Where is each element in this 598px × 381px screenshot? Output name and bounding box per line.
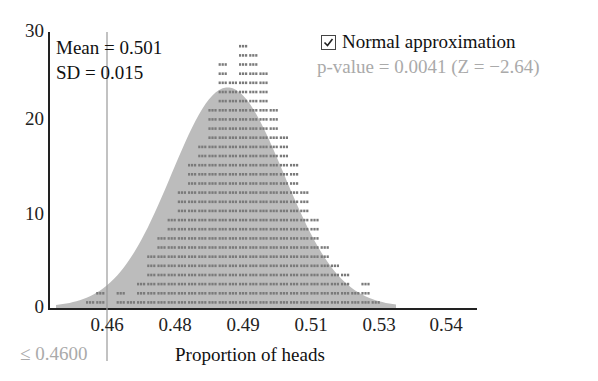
x-tick-054: 0.54 — [429, 314, 462, 336]
x-tick-049: 0.49 — [226, 314, 259, 336]
sd-label: SD = 0.015 — [56, 62, 143, 84]
cutoff-label: ≤ 0.4600 — [20, 343, 87, 365]
y-tick-10: 10 — [4, 203, 44, 225]
p-value-text: p-value = 0.0041 (Z = −2.64) — [317, 56, 540, 78]
mean-label: Mean = 0.501 — [56, 37, 162, 59]
normal-approximation-toggle[interactable]: Normal approximation — [321, 31, 516, 53]
x-tick-051: 0.51 — [294, 314, 327, 336]
y-tick-30: 30 — [4, 20, 44, 42]
x-axis-label: Proportion of heads — [175, 344, 325, 366]
x-tick-053: 0.53 — [362, 314, 395, 336]
y-tick-0: 0 — [4, 296, 44, 318]
checkbox-checked-icon[interactable] — [321, 35, 336, 50]
y-tick-20: 20 — [4, 108, 44, 130]
normal-approximation-label: Normal approximation — [342, 31, 516, 53]
x-tick-046: 0.46 — [90, 314, 123, 336]
x-tick-048: 0.48 — [158, 314, 191, 336]
